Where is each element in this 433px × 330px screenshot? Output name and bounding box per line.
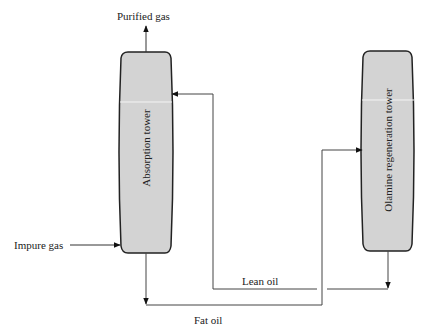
process-flow-diagram: Purified gas Impure gas Lean oil Fat oil…: [0, 0, 433, 330]
impure-gas-label: Impure gas: [14, 240, 63, 251]
lean-oil-label: Lean oil: [242, 276, 278, 287]
purified-gas-label: Purified gas: [117, 11, 170, 22]
fat-oil-label: Fat oil: [194, 315, 222, 326]
absorption-tower-label: Absorption tower: [141, 109, 152, 186]
lean-oil-line: [172, 94, 388, 289]
regeneration-tower-label: Olamine regeneration tower: [383, 88, 394, 211]
